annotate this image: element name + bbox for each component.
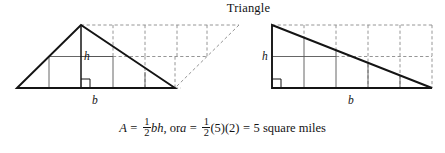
formula-equals-3: = [243, 121, 250, 136]
formula-area-symbol: A [119, 121, 127, 136]
triangle-area-figure: Triangle [0, 0, 445, 153]
formula-factors: (5)(2) [210, 121, 239, 136]
formula-half-denominator-2: 2 [203, 128, 210, 139]
left-height-label: h [84, 50, 90, 62]
formula-area-lower: a [180, 121, 186, 136]
right-triangle-group [272, 25, 432, 88]
formula-one-half-1: 1 2 [143, 117, 151, 139]
formula-equals-1: = [130, 121, 137, 136]
formula-or-text: , or [163, 121, 180, 136]
formula-half-numerator-2: 1 [203, 117, 210, 128]
formula-equals-2: = [190, 121, 197, 136]
right-interior-grid [272, 38, 400, 89]
formula-units: square miles [263, 121, 326, 136]
formula-half-denominator-1: 2 [143, 128, 150, 139]
right-base-label: b [348, 94, 354, 106]
left-base-label: b [92, 94, 98, 106]
formula-one-half-2: 1 2 [202, 117, 210, 139]
left-interior-grid [49, 57, 145, 89]
dashed-slant-edge [175, 25, 239, 88]
left-triangle-group [17, 25, 239, 88]
right-right-angle-marker [272, 79, 281, 88]
left-right-angle-marker [81, 79, 90, 88]
formula-bh: bh [151, 121, 164, 136]
right-height-label: h [262, 50, 268, 62]
area-formula-line: A = 1 2 bh , or a = 1 2 (5)(2) = 5 squar… [0, 117, 445, 139]
formula-half-numerator-1: 1 [143, 117, 150, 128]
